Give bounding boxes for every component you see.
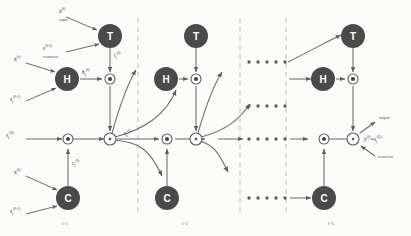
label-x-carry: x(t)	[14, 169, 20, 175]
label-output-value: y(t)=st(L)	[364, 136, 382, 145]
label-output-recurrent-caption: recurrent	[378, 155, 393, 159]
node-transform-lL-label: T	[350, 31, 356, 42]
node-carry-l1-label: C	[64, 193, 71, 204]
label-input-caption: input	[59, 18, 68, 22]
label-recurrent-caption: recurrent	[43, 55, 58, 59]
label-s-hidden: st(l-1)	[10, 96, 20, 105]
node-hidden-l2-label: H	[162, 74, 169, 85]
diagram-svg: T H C	[0, 0, 411, 236]
label-output-caption: output	[379, 116, 390, 120]
ellipsis-dots	[247, 60, 286, 199]
label-recurrent-s: s(l-1)	[43, 45, 52, 51]
node-carry-lL-label: C	[320, 193, 327, 204]
node-hidden-l1-label: H	[63, 74, 70, 85]
label-state-input: st(0)	[6, 132, 14, 141]
block-layer-L: T H C	[288, 24, 375, 210]
layer-label-2: l=2	[182, 221, 188, 226]
node-carry-l2-label: C	[163, 193, 170, 204]
layer-label-L: l=L	[328, 221, 335, 226]
input-arrows-l1	[26, 17, 99, 214]
diagram-canvas: T H C	[0, 0, 411, 236]
label-hidden-gate: ht(l)	[82, 69, 90, 78]
node-transform-l1-label: T	[107, 31, 113, 42]
layer-separators	[138, 18, 286, 216]
label-input-x: x(t)	[59, 8, 65, 14]
label-x-hidden: x(t)	[14, 56, 20, 62]
node-transform-l2-label: T	[193, 31, 199, 42]
label-carry-gate: ct(l)	[72, 160, 79, 169]
layer-label-1: l=1	[62, 221, 68, 226]
label-state-mid: st(l)	[124, 130, 131, 139]
label-s-carry: st(l-1)	[10, 208, 20, 217]
node-hidden-lL-label: H	[319, 74, 326, 85]
block-layer-2: T H C	[154, 24, 250, 210]
label-transform-gate: tt(l)	[114, 52, 120, 61]
